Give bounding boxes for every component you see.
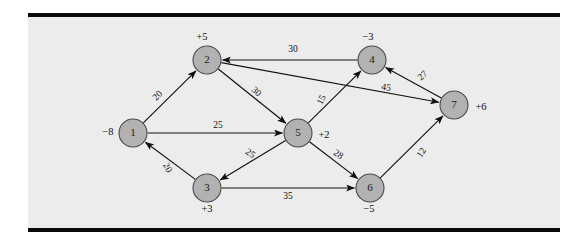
edge-2-to-5 [218, 69, 286, 123]
edge-7-to-4 [386, 67, 442, 98]
edge-cost-label-3-6: 35 [283, 191, 293, 201]
node-id-label-1: 1 [130, 126, 136, 138]
node-supply-label-4: −3 [362, 31, 373, 42]
node-supply-label-3: +3 [201, 203, 212, 214]
node-supply-label-5: +2 [318, 129, 329, 140]
edge-cost-label-4-2: 30 [288, 44, 298, 54]
edge-cost-label-7-4: 27 [416, 68, 430, 82]
node-supply-label-6: −5 [363, 203, 374, 214]
node-5[interactable]: 5+2 [284, 119, 330, 147]
node-layer: 1−82+53+34−35+26−57+6 [102, 31, 486, 214]
node-4[interactable]: 4−3 [358, 31, 386, 74]
node-id-label-5: 5 [295, 126, 301, 138]
node-supply-label-2: +5 [196, 31, 207, 42]
node-id-label-7: 7 [451, 98, 457, 110]
node-1[interactable]: 1−8 [102, 119, 147, 147]
node-id-label-2: 2 [204, 53, 210, 65]
edge-cost-label-1-5: 25 [213, 120, 223, 130]
edge-2-to-7 [221, 63, 438, 103]
edge-cost-label-5-6: 28 [332, 148, 346, 162]
edge-cost-label-2-7: 45 [381, 82, 392, 93]
node-2[interactable]: 2+5 [193, 31, 221, 74]
node-id-label-3: 3 [204, 181, 210, 193]
edge-5-to-6 [310, 142, 358, 179]
node-3[interactable]: 3+3 [193, 174, 221, 214]
edge-cost-label-6-7: 12 [415, 146, 429, 160]
node-supply-label-1: −8 [102, 126, 113, 137]
edge-cost-label-5-4: 15 [315, 93, 328, 106]
figure-page: 202530452035302515281227 1−82+53+34−35+2… [0, 0, 585, 246]
node-supply-label-7: +6 [475, 101, 486, 112]
network-graph: 202530452035302515281227 1−82+53+34−35+2… [0, 0, 585, 246]
node-7[interactable]: 7+6 [440, 91, 487, 119]
node-id-label-6: 6 [367, 181, 373, 193]
edge-6-to-7 [380, 116, 443, 178]
node-id-label-4: 4 [369, 53, 375, 65]
node-6[interactable]: 6−5 [356, 174, 384, 214]
edge-cost-label-1-2: 20 [151, 88, 165, 102]
edge-5-to-3 [220, 141, 285, 180]
